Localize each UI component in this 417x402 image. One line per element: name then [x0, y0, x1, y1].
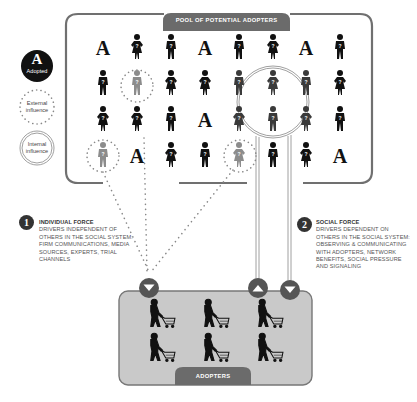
social-force-text: SOCIAL FORCE DRIVERS DEPENDENT ON OTHERS…	[316, 219, 416, 271]
internal-influence-circle	[237, 66, 309, 138]
female-figure-icon	[199, 70, 211, 95]
social-force-title: SOCIAL FORCE	[316, 219, 416, 226]
male-figure-icon	[98, 142, 108, 167]
female-figure-icon	[165, 70, 177, 95]
legend-internal-label: Internal influence	[17, 141, 57, 155]
female-figure-icon	[267, 70, 279, 95]
male-figure-icon	[268, 106, 278, 131]
female-figure-icon	[131, 34, 143, 59]
adopter-letter-icon: A	[198, 109, 213, 131]
adopter-letter-icon: A	[198, 37, 213, 59]
individual-force-line: FIRM COMMUNICATIONS, MEDIA	[39, 241, 149, 248]
social-force-down-button[interactable]	[280, 280, 300, 300]
legend-internal-line2: influence	[17, 148, 57, 155]
male-figure-icon	[301, 70, 311, 95]
social-force-badge: 2	[297, 217, 312, 232]
legend-adopted-letter: A	[27, 52, 47, 67]
male-figure-icon	[98, 70, 108, 95]
pool-frame	[66, 14, 372, 183]
legend-adopted-label: Adopted	[21, 68, 53, 75]
adopter-letter-icon: A	[96, 37, 111, 59]
female-figure-icon	[267, 34, 279, 59]
social-force-line: BENEFITS, SOCIAL PRESSURE	[316, 256, 416, 263]
male-figure-icon	[166, 34, 176, 59]
individual-force-text: INDIVIDUAL FORCE DRIVERS INDEPENDENT OF …	[39, 219, 149, 263]
social-force-line: OBSERVING & COMMUNICATING	[316, 241, 416, 248]
social-force-line: DRIVERS DEPENDENT ON	[316, 226, 416, 233]
individual-force-line: SOURCES, EXPERTS, TRIAL	[39, 249, 149, 256]
social-force-line: WITH ADOPTERS, NETWORK	[316, 249, 416, 256]
individual-force-line: CHANNELS	[39, 256, 149, 263]
adopter-letter-icon: A	[333, 145, 348, 167]
individual-force-line: DRIVERS INDEPENDENT OF	[39, 226, 149, 233]
male-figure-icon	[335, 34, 345, 59]
male-figure-icon	[234, 34, 244, 59]
legend-internal-line1: Internal	[17, 141, 57, 148]
male-figure-icon	[335, 106, 345, 131]
male-figure-icon	[166, 106, 176, 131]
male-figure-icon	[132, 70, 142, 95]
adopters-tab-label: ADOPTERS	[175, 373, 251, 379]
legend-external-label: External influence	[17, 100, 57, 114]
female-figure-icon	[233, 142, 245, 167]
social-force-line: AND SIGNALING	[316, 263, 416, 270]
diagram-canvas: ? ?	[0, 0, 417, 402]
social-force-up-button[interactable]	[248, 278, 268, 298]
female-figure-icon	[131, 106, 143, 131]
adopter-letter-icon: A	[299, 37, 314, 59]
male-figure-icon	[268, 142, 278, 167]
female-figure-icon	[300, 106, 312, 131]
female-figure-icon	[233, 106, 245, 131]
individual-force-line: OTHERS IN THE SOCIAL SYSTEM:	[39, 234, 149, 241]
figure-grid: AAAAAA	[96, 34, 348, 167]
female-figure-icon	[165, 142, 177, 167]
male-figure-icon	[200, 142, 210, 167]
pool-tab-label: POOL OF POTENTIAL ADOPTERS	[163, 17, 290, 23]
individual-force-title: INDIVIDUAL FORCE	[39, 219, 149, 226]
legend-external-line1: External	[17, 100, 57, 107]
social-force-line: OTHERS IN THE SOCIAL SYSTEM:	[316, 234, 416, 241]
legend-external-line2: influence	[17, 107, 57, 114]
adopter-letter-icon: A	[130, 145, 145, 167]
female-figure-icon	[300, 142, 312, 167]
female-figure-icon	[97, 106, 109, 131]
individual-force-down-button[interactable]	[139, 278, 159, 298]
individual-force-badge: 1	[19, 215, 34, 230]
female-figure-icon	[334, 70, 346, 95]
